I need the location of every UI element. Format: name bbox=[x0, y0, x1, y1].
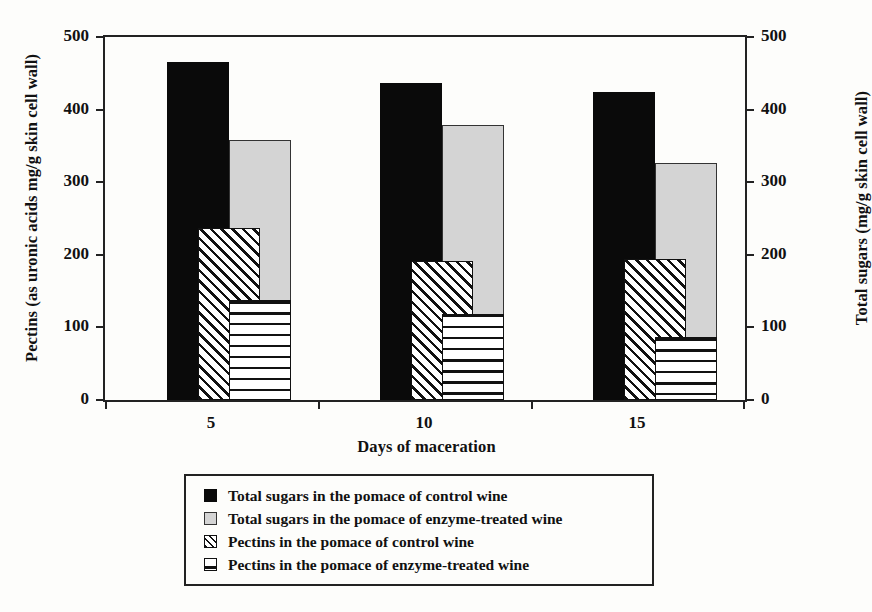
legend-item-total-sugars-enzyme: Total sugars in the pomace of enzyme-tre… bbox=[186, 507, 652, 530]
y-label-left-0: 0 bbox=[29, 390, 89, 407]
legend-label-pectins-enzyme: Pectins in the pomace of enzyme-treated … bbox=[228, 557, 529, 573]
x-tick-2 bbox=[531, 400, 533, 409]
x-axis-title: Days of maceration bbox=[0, 437, 853, 457]
hatched-square-icon bbox=[204, 535, 217, 548]
y-tick-right-100 bbox=[745, 326, 754, 328]
bar-pectins-enzyme-day15 bbox=[655, 337, 717, 400]
black-square-icon bbox=[204, 489, 217, 502]
y-axis-right-title: Total sugars (mg/g skin cell wall) bbox=[852, 28, 872, 388]
y-label-left-200: 200 bbox=[29, 245, 89, 262]
chart-legend: Total sugars in the pomace of control wi… bbox=[184, 474, 654, 586]
bar-pectins-enzyme-day5 bbox=[229, 300, 291, 400]
y-tick-right-0 bbox=[745, 399, 754, 401]
gray-square-icon bbox=[204, 512, 217, 525]
y-tick-left-0 bbox=[96, 399, 105, 401]
y-tick-left-200 bbox=[96, 254, 105, 256]
plot-area: 500 400 300 200 100 0 500 400 300 200 10… bbox=[103, 35, 747, 402]
legend-label-total-sugars-enzyme: Total sugars in the pomace of enzyme-tre… bbox=[228, 511, 563, 527]
legend-label-total-sugars-control: Total sugars in the pomace of control wi… bbox=[228, 488, 507, 504]
legend-item-pectins-control: Pectins in the pomace of control wine bbox=[186, 530, 652, 553]
legend-label-pectins-control: Pectins in the pomace of control wine bbox=[228, 534, 474, 550]
y-label-right-100: 100 bbox=[761, 317, 821, 334]
y-label-right-0: 0 bbox=[761, 390, 821, 407]
y-tick-right-300 bbox=[745, 181, 754, 183]
y-tick-left-300 bbox=[96, 181, 105, 183]
y-label-right-400: 400 bbox=[761, 100, 821, 117]
y-tick-right-500 bbox=[745, 36, 754, 38]
y-tick-left-100 bbox=[96, 326, 105, 328]
y-label-left-100: 100 bbox=[29, 317, 89, 334]
x-tick-1 bbox=[318, 400, 320, 409]
legend-item-pectins-enzyme: Pectins in the pomace of enzyme-treated … bbox=[186, 553, 652, 576]
y-tick-right-200 bbox=[745, 254, 754, 256]
y-label-left-300: 300 bbox=[29, 172, 89, 189]
x-tick-start bbox=[105, 400, 107, 409]
y-tick-left-500 bbox=[96, 36, 105, 38]
y-label-left-400: 400 bbox=[29, 100, 89, 117]
y-label-right-300: 300 bbox=[761, 172, 821, 189]
y-label-left-500: 500 bbox=[29, 27, 89, 44]
y-label-right-500: 500 bbox=[761, 27, 821, 44]
x-label-10: 10 bbox=[394, 413, 454, 433]
y-tick-right-400 bbox=[745, 109, 754, 111]
legend-item-total-sugars-control: Total sugars in the pomace of control wi… bbox=[186, 484, 652, 507]
lined-square-icon bbox=[204, 558, 217, 571]
x-label-5: 5 bbox=[181, 413, 241, 433]
y-tick-left-400 bbox=[96, 109, 105, 111]
x-label-15: 15 bbox=[607, 413, 667, 433]
bar-pectins-enzyme-day10 bbox=[442, 314, 504, 400]
x-tick-end bbox=[743, 400, 745, 409]
y-label-right-200: 200 bbox=[761, 245, 821, 262]
